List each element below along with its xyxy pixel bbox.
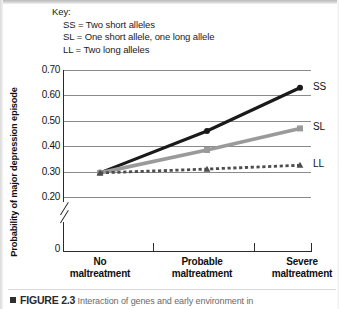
x-axis-tick — [311, 243, 312, 252]
x-axis-tick — [153, 243, 154, 252]
figure-container: Key: SS = Two short alleles SL = One sho… — [0, 0, 339, 309]
figure-caption: FIGURE 2.3 Interaction of genes and earl… — [10, 294, 335, 306]
x-axis-tick — [254, 243, 255, 252]
series-label-ll: LL — [313, 158, 324, 169]
data-point-sl — [204, 147, 210, 153]
caption-divider — [8, 289, 336, 290]
data-point-sl — [297, 125, 303, 131]
x-axis-category-label: Severemaltreatment — [256, 256, 339, 280]
series-label-sl: SL — [313, 121, 325, 132]
caption-figure-number: FIGURE 2.3 — [20, 294, 75, 306]
line-chart: Probability of major depression episode … — [0, 0, 339, 309]
square-bullet-icon — [10, 297, 16, 303]
x-axis-category-label: Nomaltreatment — [54, 256, 146, 280]
series-label-ss: SS — [313, 81, 326, 92]
data-point-ss — [297, 85, 303, 91]
caption-text: Interaction of genes and early environme… — [78, 296, 254, 306]
series-line-ss — [100, 88, 300, 173]
x-axis-category-label: Probablemaltreatment — [156, 256, 248, 280]
data-point-ss — [204, 128, 210, 134]
